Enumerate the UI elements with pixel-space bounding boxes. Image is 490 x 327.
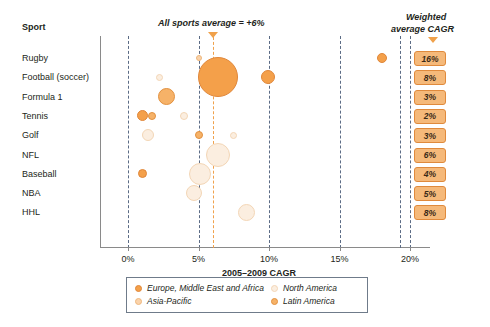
- gridline-0%: [128, 36, 129, 248]
- cagr-badge-baseball: 4%: [414, 167, 446, 182]
- cagr-badge-nfl: 6%: [414, 148, 446, 163]
- bubble-nba-15: [186, 185, 202, 201]
- tick-20%: [410, 247, 411, 251]
- bubble-golf-9: [142, 129, 154, 141]
- legend: Europe, Middle East and Africa Asia-Paci…: [126, 277, 368, 313]
- category-label-nfl: NFL: [22, 150, 39, 160]
- bubble-tennis-7: [148, 112, 156, 120]
- legend-label-0: Europe, Middle East and Africa: [147, 283, 264, 293]
- bubble-rugby-0: [196, 55, 202, 61]
- cagr-badge-rugby: 16%: [414, 51, 446, 66]
- x-tick-label-5%: 5%: [192, 254, 205, 264]
- x-tick-label-15%: 15%: [330, 254, 348, 264]
- bubble-hhl-16: [238, 204, 255, 221]
- legend-swatch-3: [271, 298, 278, 305]
- legend-label-1: Asia-Pacific: [147, 296, 191, 306]
- category-label-tennis: Tennis: [22, 111, 48, 121]
- bubble-baseball-14: [189, 163, 211, 185]
- gridline-10%: [269, 36, 270, 248]
- bubble-football-soccer--2: [198, 57, 238, 97]
- bubble-baseball-13: [138, 169, 147, 178]
- bubble-football-soccer--4: [156, 74, 163, 81]
- x-tick-label-10%: 10%: [260, 254, 278, 264]
- sport-column-header: Sport: [22, 22, 46, 32]
- legend-swatch-0: [135, 285, 142, 292]
- bubble-football-soccer--3: [261, 70, 275, 84]
- legend-swatch-2: [271, 285, 278, 292]
- gridline-15%: [340, 36, 341, 248]
- cagr-column-header-line2: average CAGR: [391, 24, 454, 34]
- y-axis-line: [100, 36, 101, 248]
- cagr-badge-nba: 5%: [414, 186, 446, 201]
- category-label-golf: Golf: [22, 130, 39, 140]
- cagr-column-header-line1: Weighted: [406, 12, 446, 22]
- bubble-golf-10: [195, 131, 203, 139]
- tick-5%: [199, 247, 200, 251]
- x-axis-line: [100, 247, 430, 248]
- tick-10%: [269, 247, 270, 251]
- x-tick-label-0%: 0%: [121, 254, 134, 264]
- gridline-20%: [410, 36, 411, 248]
- category-label-formula-1: Formula 1: [22, 92, 63, 102]
- legend-label-2: North America: [283, 283, 337, 293]
- average-annotation: All sports average = +6%: [158, 18, 265, 28]
- category-label-football-soccer-: Football (soccer): [22, 72, 89, 82]
- cagr-badge-football-soccer-: 8%: [414, 70, 446, 85]
- bubble-tennis-6: [137, 110, 148, 121]
- cagr-badge-hhl: 8%: [414, 205, 446, 220]
- bubble-formula-1-5: [158, 88, 175, 105]
- legend-label-3: Latin America: [283, 296, 335, 306]
- cagr-column-divider: [400, 36, 401, 248]
- chart-canvas: Sport Weighted average CAGR All sports a…: [0, 0, 490, 327]
- bubble-nfl-12: [206, 143, 230, 167]
- bubble-tennis-8: [180, 112, 188, 120]
- cagr-badge-tennis: 2%: [414, 109, 446, 124]
- tick-0%: [128, 247, 129, 251]
- cagr-badge-formula-1: 3%: [414, 90, 446, 105]
- category-label-baseball: Baseball: [22, 169, 57, 179]
- cagr-badge-golf: 3%: [414, 128, 446, 143]
- average-marker-icon: [208, 32, 218, 38]
- cagr-column-marker-icon: [428, 37, 438, 43]
- x-tick-label-20%: 20%: [401, 254, 419, 264]
- category-label-nba: NBA: [22, 188, 41, 198]
- category-label-hhl: HHL: [22, 207, 40, 217]
- bubble-golf-11: [230, 132, 237, 139]
- category-label-rugby: Rugby: [22, 53, 48, 63]
- legend-swatch-1: [135, 298, 142, 305]
- bubble-rugby-1: [377, 53, 387, 63]
- tick-15%: [340, 247, 341, 251]
